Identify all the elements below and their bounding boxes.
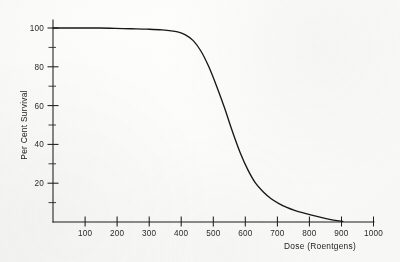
x-tick-label: 200: [110, 229, 125, 238]
x-tick-label: 300: [142, 229, 157, 238]
x-tick-label: 1000: [364, 229, 383, 238]
survival-curve-chart: 100 80 60 40 20 100 200 300 400 500 60: [0, 0, 400, 262]
x-tick-label: 600: [238, 229, 253, 238]
x-tick-label: 700: [270, 229, 285, 238]
y-tick-label: 40: [34, 140, 44, 149]
x-tick-label: 800: [302, 229, 317, 238]
x-tick-label: 100: [78, 229, 93, 238]
y-axis-title: Per Cent Survival: [19, 90, 29, 159]
y-axis-minor-ticks: [49, 47, 57, 202]
x-axis-title: Dose (Roentgens): [284, 241, 356, 251]
figure-canvas: 100 80 60 40 20 100 200 300 400 500 60: [0, 0, 400, 262]
y-tick-label: 80: [34, 63, 44, 72]
x-axis-tick-labels: 100 200 300 400 500 600 700 800 900 1000: [78, 229, 383, 238]
x-tick-label: 900: [334, 229, 349, 238]
y-tick-label: 20: [34, 179, 44, 188]
x-tick-label: 400: [174, 229, 189, 238]
x-tick-label: 500: [206, 229, 221, 238]
y-axis-tick-labels: 100 80 60 40 20: [30, 24, 45, 188]
y-tick-label: 100: [30, 24, 45, 33]
y-tick-label: 60: [34, 102, 44, 111]
survival-curve-line: [53, 28, 343, 221]
